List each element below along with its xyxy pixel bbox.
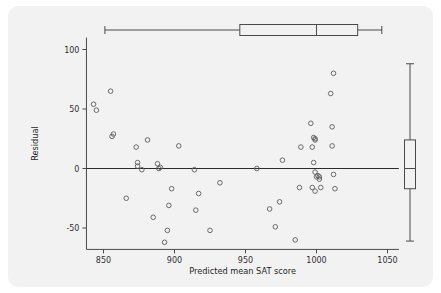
right-boxplot-box bbox=[405, 140, 416, 189]
x-axis-tick-label: 950 bbox=[238, 256, 253, 265]
data-point bbox=[134, 145, 139, 150]
data-point bbox=[293, 238, 298, 243]
data-point bbox=[280, 158, 285, 163]
data-point bbox=[333, 186, 338, 191]
data-point bbox=[176, 144, 181, 149]
data-point bbox=[311, 160, 316, 165]
x-axis-tick-label: 1050 bbox=[377, 256, 397, 265]
y-axis-title: Residual bbox=[30, 126, 40, 161]
data-point bbox=[330, 144, 335, 149]
scatter-plot-figure: 100500-5085090095010001050Predicted mean… bbox=[0, 0, 441, 293]
x-axis-tick-label: 1000 bbox=[306, 256, 326, 265]
y-axis-tick-label: 0 bbox=[74, 165, 79, 174]
data-point bbox=[124, 196, 129, 201]
data-point bbox=[94, 108, 99, 113]
data-point bbox=[310, 145, 315, 150]
data-point bbox=[309, 121, 314, 126]
x-axis-title: Predicted mean SAT score bbox=[189, 266, 296, 276]
data-point bbox=[277, 200, 282, 205]
data-point bbox=[151, 215, 156, 220]
y-axis-tick-label: 50 bbox=[69, 105, 79, 114]
y-axis-tick-label: 100 bbox=[64, 46, 79, 55]
data-point bbox=[273, 225, 278, 230]
x-axis-tick-label: 850 bbox=[96, 256, 111, 265]
y-axis-tick-label: -50 bbox=[66, 224, 79, 233]
data-point bbox=[331, 71, 336, 76]
chart-svg: 100500-5085090095010001050Predicted mean… bbox=[0, 0, 441, 293]
data-point bbox=[313, 189, 318, 194]
data-point bbox=[318, 185, 323, 190]
data-point bbox=[196, 191, 201, 196]
data-point bbox=[145, 138, 150, 143]
data-point bbox=[194, 208, 199, 213]
x-axis-tick-label: 900 bbox=[167, 256, 182, 265]
data-point bbox=[328, 91, 333, 96]
top-boxplot-box bbox=[240, 25, 358, 36]
data-point bbox=[297, 185, 302, 190]
data-point bbox=[267, 207, 272, 212]
data-point bbox=[331, 172, 336, 177]
data-point bbox=[208, 228, 213, 233]
data-point bbox=[167, 203, 172, 208]
data-point bbox=[165, 228, 170, 233]
data-point bbox=[162, 240, 167, 245]
data-point bbox=[108, 89, 113, 94]
data-point bbox=[299, 145, 304, 150]
data-point bbox=[169, 186, 174, 191]
data-point bbox=[218, 180, 223, 185]
data-point bbox=[330, 125, 335, 130]
data-point bbox=[91, 102, 96, 107]
